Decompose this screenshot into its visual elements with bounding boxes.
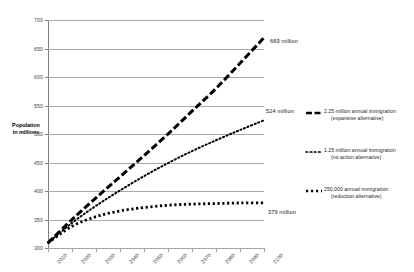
x-tick-mark: [216, 249, 217, 252]
legend-label-no-action-line1: 1.25 million annual immigration: [324, 147, 396, 153]
x-tick-mark: [72, 249, 73, 252]
x-tick-mark: [120, 249, 121, 252]
x-tick-label: 2040: [128, 252, 141, 265]
legend-label-expansive-line2: (expansive alternative): [324, 115, 412, 122]
x-tick-label: 2020: [80, 252, 93, 265]
y-tick-label: 550: [17, 103, 43, 109]
y-tick-label: 300: [17, 245, 43, 251]
y-tick-label: 400: [17, 188, 43, 194]
x-tick-mark: [240, 249, 241, 252]
legend-label-expansive-line1: 2.25 million annual immigration: [324, 108, 396, 114]
series-line: [48, 203, 264, 243]
x-tick-label: 2030: [104, 252, 117, 265]
x-tick-label: 2090: [248, 252, 261, 265]
annotation-no-action: 524 million: [266, 108, 294, 114]
x-tick-label: 2100: [272, 252, 285, 265]
x-tick-label: 2080: [224, 252, 237, 265]
legend-item-no-action: 1.25 million annual immigration (no acti…: [306, 147, 412, 163]
x-tick-mark: [48, 249, 49, 252]
y-tick-label: 350: [17, 217, 43, 223]
y-tick-label: 700: [17, 17, 43, 23]
legend-label-no-action-line2: (no action alternative): [324, 154, 412, 161]
series-lines: [48, 20, 264, 248]
annotation-expansive: 669 million: [270, 38, 298, 44]
series-line: [48, 120, 264, 243]
legend-label-reduction-line1: 250,000 annual immigration: [324, 186, 388, 192]
x-tick-mark: [168, 249, 169, 252]
x-tick-mark: [96, 249, 97, 252]
x-tick-mark: [264, 249, 265, 252]
legend-label-reduction-line2: (reduction alternative): [324, 193, 412, 200]
annotation-reduction: 379 million: [268, 209, 296, 215]
x-tick-mark: [192, 249, 193, 252]
legend-label-expansive: 2.25 million annual immigration (expansi…: [324, 108, 412, 122]
legend-item-reduction: 250,000 annual immigration (reduction al…: [306, 186, 412, 202]
legend-swatch-reduction: [306, 189, 322, 193]
y-tick-label: 650: [17, 46, 43, 52]
legend-swatch-expansive: [306, 111, 322, 115]
legend-swatch-no-action: [306, 150, 322, 154]
legend-label-reduction: 250,000 annual immigration (reduction al…: [324, 186, 412, 200]
series-line: [48, 38, 264, 243]
x-tick-mark: [144, 249, 145, 252]
x-tick-label: 2050: [152, 252, 165, 265]
legend-label-no-action: 1.25 million annual immigration (no acti…: [324, 147, 412, 161]
y-tick-label: 500: [17, 131, 43, 137]
x-tick-label: 2070: [200, 252, 213, 265]
y-axis-title-line1: Population: [12, 122, 40, 128]
legend-item-expansive: 2.25 million annual immigration (expansi…: [306, 108, 412, 124]
legend: 2.25 million annual immigration (expansi…: [306, 108, 412, 225]
x-tick-label: 2060: [176, 252, 189, 265]
series-plot: [48, 20, 264, 248]
y-tick-label: 600: [17, 74, 43, 80]
population-projection-chart: Population in millions 30035040045050055…: [0, 0, 414, 272]
x-tick-label: 2010: [56, 252, 69, 265]
x-axis-line: [48, 248, 265, 249]
y-tick-label: 450: [17, 160, 43, 166]
